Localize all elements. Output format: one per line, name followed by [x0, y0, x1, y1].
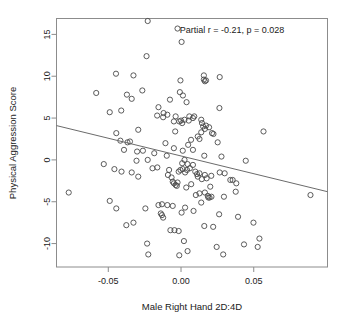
y-tick-label: -5: [42, 198, 52, 206]
plot-svg: -10-5051015 -0.050.000.05 Partial r = -0…: [0, 0, 344, 325]
y-tick-label: 15: [42, 29, 52, 39]
x-tick-label: 0.05: [245, 276, 263, 286]
x-axis-title: Male Right Hand 2D:4D: [142, 301, 242, 312]
scatter-plot-figure: -10-5051015 -0.050.000.05 Partial r = -0…: [0, 0, 344, 325]
y-tick-label: 5: [42, 116, 52, 121]
x-tick-label: -0.05: [98, 276, 119, 286]
x-tick-label: 0.00: [172, 276, 190, 286]
y-axis-title: Physical Aggression Score: [7, 87, 18, 199]
y-tick-label: 10: [42, 71, 52, 81]
y-tick-label: 0: [42, 157, 52, 162]
correlation-annotation: Partial r = -0.21, p = 0.028: [180, 25, 285, 35]
y-tick-label: -10: [42, 237, 52, 250]
